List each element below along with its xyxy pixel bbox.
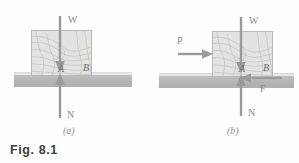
point-a-label-a: A [58, 64, 64, 74]
figure-caption: Fig. 8.1 [10, 143, 58, 157]
figure-8-1: W N A B (a) [0, 0, 299, 163]
normal-force-label-b: N [248, 108, 255, 118]
point-b-label-b: B [263, 63, 269, 73]
subfigure-a-caption: (a) [63, 126, 75, 136]
normal-force-arrow-a [53, 73, 67, 118]
friction-force-label-f: F [260, 84, 266, 94]
applied-force-label-p: P [177, 36, 183, 46]
point-b-label-a: B [83, 63, 89, 73]
subfigure-a: W N A B (a) [0, 0, 150, 140]
normal-force-label-a: N [67, 110, 74, 120]
applied-force-arrow-p [178, 47, 214, 61]
weight-label-b: W [249, 16, 258, 26]
weight-label-a: W [68, 15, 77, 25]
subfigure-b-caption: (b) [227, 126, 239, 136]
subfigure-b: W P N F A B (b) [149, 0, 299, 140]
point-a-label-b: A [239, 64, 245, 74]
